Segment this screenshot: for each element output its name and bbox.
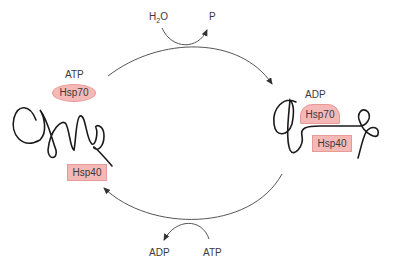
phosphate-label: P — [209, 11, 216, 23]
top-cycle-arrow — [108, 47, 272, 84]
left-atp-label: ATP — [65, 69, 84, 81]
bottom-atp-label: ATP — [203, 247, 222, 259]
right-adp-label: ADP — [305, 89, 326, 101]
bottom-adp-label: ADP — [149, 247, 170, 259]
hsp70-adp-bound: Hsp70 — [300, 104, 340, 124]
hsp40-right: Hsp40 — [312, 135, 352, 152]
bottom-cycle-arrow — [104, 174, 282, 219]
water-label: H2O — [149, 11, 168, 24]
bottom-side-arrow — [164, 223, 209, 240]
hsp70-atp-bound: Hsp70 — [52, 84, 96, 102]
top-side-arrow — [162, 28, 207, 45]
hsp40-left: Hsp40 — [67, 164, 107, 181]
unfolded-protein-strand-left — [13, 108, 112, 166]
